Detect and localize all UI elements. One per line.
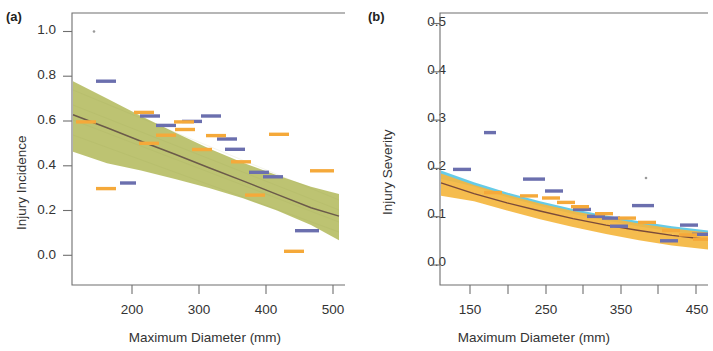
panel-a-x-ticks [132, 285, 333, 294]
panel-b-x-ticks [470, 285, 696, 294]
panel-b-y-ticks [431, 24, 440, 266]
panel-b-plot [354, 0, 708, 351]
panel-a-y-ticks [63, 32, 72, 256]
panel-a: (a) 1.0 0.8 0.6 0.4 0.2 0.0 200 300 400 … [0, 0, 354, 351]
panel-a-plot [0, 0, 354, 351]
panel-b: (b) 0.5 0.4 0.3 0.2 0.1 0.0 150 250 350 … [354, 0, 708, 351]
panel-b-stray-dot [645, 177, 648, 180]
panel-a-outlier-dot [93, 30, 96, 33]
panel-a-confidence-band [73, 81, 339, 240]
